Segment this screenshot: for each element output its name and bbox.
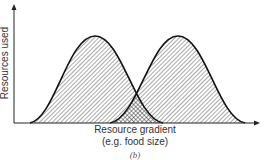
y-axis-label: Resources used [0,23,13,103]
y-axis-arrow-icon [12,4,17,10]
panel-label: (b) [120,150,150,160]
x-axis-arrow-icon [254,121,260,126]
x-axis-label: Resource gradient (e.g. food size) [80,124,190,148]
x-axis-label-line2: (e.g. food size) [80,136,190,148]
x-axis-label-line1: Resource gradient [80,124,190,136]
